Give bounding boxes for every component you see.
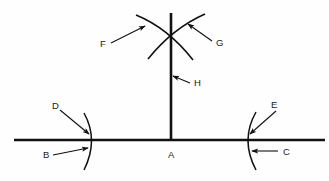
label-e: E <box>271 99 277 110</box>
label-c: C <box>283 146 290 157</box>
label-a: A <box>168 149 175 160</box>
leader-g <box>188 24 212 41</box>
label-h: H <box>194 77 201 88</box>
label-d: D <box>52 100 59 111</box>
leader-f <box>111 26 145 43</box>
label-f: F <box>100 38 106 49</box>
leader-b <box>53 148 88 155</box>
label-g: G <box>216 37 223 48</box>
upper-right-arc <box>148 14 205 59</box>
leader-h <box>173 76 190 83</box>
diagram-canvas: A B C D E F G H <box>0 0 329 181</box>
left-base-arc <box>84 113 92 170</box>
construction-diagram: A B C D E F G H <box>0 0 329 181</box>
upper-left-arc <box>136 15 193 60</box>
label-b: B <box>43 149 49 160</box>
